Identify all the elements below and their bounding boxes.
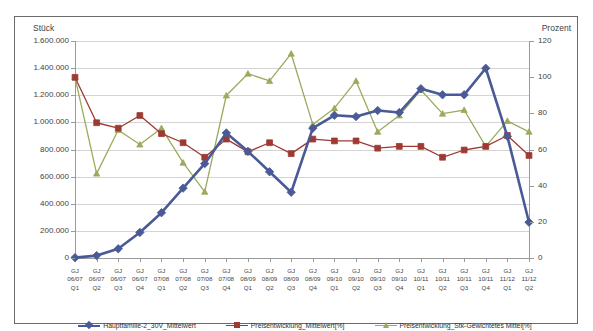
left-tick-label: 1.200.000: [17, 90, 69, 99]
x-label-row1: GJ: [179, 267, 187, 274]
x-label-row3: Q4: [136, 284, 144, 291]
data-point-marker: [418, 143, 424, 149]
left-tickmark: [71, 68, 75, 69]
chart-legend: Hauptfamilie-2_30V_MittelwertPreisentwic…: [31, 317, 579, 331]
right-tickmark: [530, 113, 534, 114]
x-label-row1: GJ: [503, 267, 511, 274]
legend-item[interactable]: Hauptfamilie-2_30V_Mittelwert: [78, 321, 196, 330]
data-point-marker: [72, 74, 78, 80]
left-tickmark: [71, 231, 75, 232]
left-tick-label: 800.000: [17, 145, 69, 154]
right-tickmark: [530, 186, 534, 187]
x-label-row1: GJ: [222, 267, 230, 274]
data-point-marker: [461, 147, 467, 153]
x-label-row1: GJ: [136, 267, 144, 274]
left-tickmark: [71, 177, 75, 178]
x-label-row3: Q2: [438, 284, 446, 291]
left-tickmark: [71, 150, 75, 151]
x-label-row1: GJ: [374, 267, 382, 274]
x-label-row1: GJ: [158, 267, 166, 274]
data-point-marker: [353, 78, 359, 84]
data-point-marker: [245, 71, 251, 77]
x-label-row1: GJ: [395, 267, 403, 274]
legend-item[interactable]: Preisentwicklung_Stk-Gewichtetes Mittel[…: [375, 321, 532, 330]
legend-item[interactable]: Preisentwicklung_Mittelwert[%]: [226, 321, 345, 330]
legend-triangle-icon: [375, 321, 397, 330]
data-point-marker: [373, 106, 381, 114]
data-point-marker: [159, 131, 165, 137]
left-tickmark: [71, 204, 75, 205]
series-line: [75, 54, 529, 192]
data-point-marker: [396, 143, 402, 149]
cropped-top-text: [0, 0, 593, 14]
right-tick-label: 0: [538, 253, 542, 262]
x-label-row3: Q3: [114, 284, 122, 291]
left-tick-label: 0: [17, 253, 69, 262]
data-point-marker: [267, 140, 273, 146]
right-axis-title: Prozent: [542, 23, 571, 33]
x-label-row1: GJ: [287, 267, 295, 274]
x-label-row3: Q3: [460, 284, 468, 291]
legend-label: Hauptfamilie-2_30V_Mittelwert: [103, 322, 196, 329]
x-label-row1: GJ: [482, 267, 490, 274]
data-point-marker: [440, 154, 446, 160]
x-label-row3: Q4: [482, 284, 490, 291]
right-tick-label: 120: [538, 36, 551, 45]
x-label-row1: GJ: [330, 267, 338, 274]
legend-label: Preisentwicklung_Mittelwert[%]: [251, 322, 345, 329]
left-tick-label: 1.600.000: [17, 36, 69, 45]
legend-square-icon: [226, 321, 248, 330]
x-label-row3: Q1: [71, 284, 79, 291]
x-label-row1: GJ: [460, 267, 468, 274]
data-point-marker: [94, 120, 100, 126]
plot-area: [75, 41, 530, 259]
data-point-marker: [94, 171, 100, 177]
data-point-marker: [375, 145, 381, 151]
x-label-row3: Q4: [222, 284, 230, 291]
left-tick-label: 1.400.000: [17, 63, 69, 72]
left-tickmark: [71, 258, 75, 259]
data-point-marker: [526, 153, 532, 159]
series-lines: [75, 41, 530, 259]
right-tickmark: [530, 258, 534, 259]
left-tick-label: 200.000: [17, 226, 69, 235]
right-tick-label: 40: [538, 181, 547, 190]
right-tick-label: 100: [538, 72, 551, 81]
legend-label: Preisentwicklung_Stk-Gewichtetes Mittel[…: [400, 322, 532, 329]
x-label-row1: GJ: [93, 267, 101, 274]
left-axis-title: Stück: [33, 23, 54, 33]
data-point-marker: [92, 251, 100, 259]
data-point-marker: [353, 138, 359, 144]
x-label-row3: Q4: [309, 284, 317, 291]
x-axis-category-label: GJ11/12Q2: [512, 267, 546, 292]
right-tick-label: 20: [538, 217, 547, 226]
x-label-row3: Q2: [92, 284, 100, 291]
x-label-row3: Q4: [395, 284, 403, 291]
x-label-row1: GJ: [309, 267, 317, 274]
right-tickmark: [530, 222, 534, 223]
x-label-row1: GJ: [525, 267, 533, 274]
series-1: [71, 64, 533, 262]
x-label-row3: Q3: [287, 284, 295, 291]
x-label-row3: Q2: [525, 284, 533, 291]
x-label-row3: Q2: [352, 284, 360, 291]
data-point-marker: [158, 125, 164, 131]
x-label-row1: GJ: [201, 267, 209, 274]
x-label-row3: Q2: [265, 284, 273, 291]
data-point-marker: [483, 143, 489, 149]
data-point-marker: [180, 140, 186, 146]
x-axis-labels: GJ06/07Q1GJ06/07Q2GJ06/07Q3GJ06/07Q4GJ07…: [75, 267, 530, 307]
x-label-row3: Q3: [201, 284, 209, 291]
data-point-marker: [115, 125, 121, 131]
x-label-row3: Q2: [179, 284, 187, 291]
chart-screenshot: Stück Prozent 1.600.0001.400.0001.200.00…: [0, 0, 593, 331]
series-3: [72, 51, 532, 195]
data-point-marker: [461, 107, 467, 113]
data-point-marker: [288, 151, 294, 157]
left-tickmark: [71, 41, 75, 42]
series-line: [75, 68, 529, 257]
chart-frame: Stück Prozent 1.600.0001.400.0001.200.00…: [14, 16, 578, 324]
left-tickmark: [71, 95, 75, 96]
left-tick-label: 600.000: [17, 172, 69, 181]
x-label-row1: GJ: [114, 267, 122, 274]
